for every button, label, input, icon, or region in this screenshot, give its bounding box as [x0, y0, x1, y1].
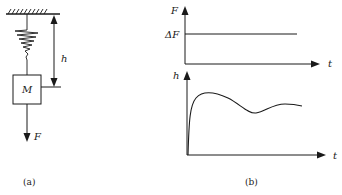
delta-f-label: ΔF — [164, 29, 180, 40]
caption-b: (b) — [245, 177, 258, 187]
force-axis-label: F — [170, 5, 179, 16]
arrow-up-icon — [51, 15, 58, 24]
arrow-up-icon — [184, 71, 191, 80]
height-axis-label: h — [173, 70, 179, 81]
arrow-right-icon — [317, 152, 326, 159]
height-dimension — [41, 15, 61, 87]
force-plot: F ΔF t — [164, 5, 333, 69]
response-curve — [188, 93, 302, 155]
height-label: h — [61, 53, 67, 64]
arrow-up-icon — [182, 6, 189, 15]
mass-label: M — [21, 84, 33, 95]
height-plot: h t — [173, 70, 338, 161]
caption-a: (a) — [23, 177, 35, 187]
spring-mass-figure: M h F (a) — [6, 9, 67, 187]
diagram-canvas: M h F (a) F ΔF t h t (b) — [0, 0, 342, 195]
spring — [15, 14, 38, 75]
time-axis-label: t — [333, 150, 338, 161]
time-axis-label: t — [328, 58, 333, 69]
ceiling-support — [6, 9, 60, 14]
force-arrow — [24, 104, 31, 142]
arrow-down-icon — [51, 78, 58, 87]
arrow-down-icon — [24, 133, 31, 142]
arrow-right-icon — [311, 61, 320, 68]
force-label: F — [33, 131, 42, 142]
